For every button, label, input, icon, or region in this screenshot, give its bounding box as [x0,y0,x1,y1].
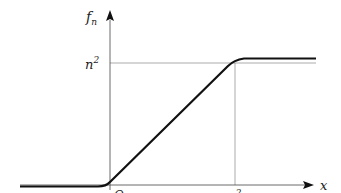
y-axis-label: fn [85,9,97,27]
function-curve [20,59,316,187]
origin-label: O [114,189,124,193]
x-tick-label: n2 [228,188,242,193]
diagram-canvas: fn n2 O n2 x [0,0,341,193]
y-axis-arrow-icon [106,10,114,21]
y-tick-label: n2 [85,55,99,72]
x-axis-label: x [320,178,328,193]
